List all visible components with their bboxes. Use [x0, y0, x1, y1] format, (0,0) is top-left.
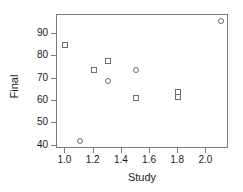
- y-axis-tick-label: 40: [8, 140, 48, 150]
- data-point-marker: [218, 18, 224, 24]
- y-axis-tick-label: 50: [8, 117, 48, 127]
- scatter-plot-figure: 4050607080901.01.21.41.61.82.0 Final Stu…: [0, 0, 243, 192]
- data-point-marker: [62, 42, 68, 48]
- data-point-marker: [175, 94, 181, 100]
- x-axis-tick: [149, 148, 150, 153]
- x-axis-tick: [177, 148, 178, 153]
- data-point-marker: [91, 67, 97, 73]
- x-axis-tick-label: 2.0: [185, 155, 225, 165]
- x-axis-label: Study: [56, 172, 228, 183]
- y-axis-tick-label: 90: [8, 28, 48, 38]
- data-point-marker: [105, 78, 111, 84]
- x-axis-tick: [64, 148, 65, 153]
- data-point-marker: [77, 138, 83, 144]
- data-point-marker: [133, 67, 139, 73]
- data-point-marker: [105, 58, 111, 64]
- y-axis-label: Final: [9, 57, 20, 117]
- x-axis-tick: [205, 148, 206, 153]
- x-axis-tick: [121, 148, 122, 153]
- data-point-marker: [133, 95, 139, 101]
- plot-frame: [56, 14, 228, 148]
- x-axis-tick: [93, 148, 94, 153]
